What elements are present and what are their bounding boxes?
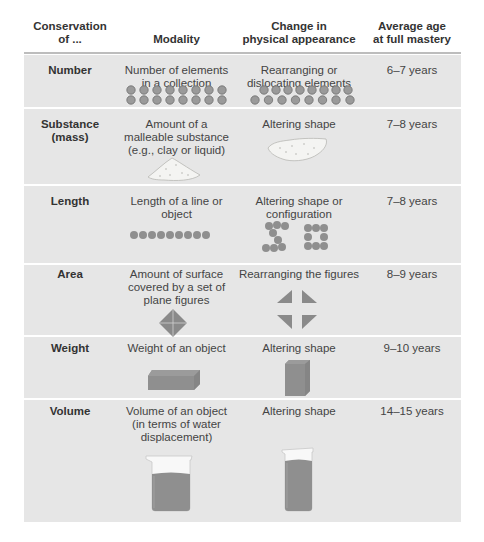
change-text: Altering shape <box>234 405 364 418</box>
narrow-beaker-figure <box>281 446 317 512</box>
change-text: Altering shape <box>234 118 364 131</box>
modality-line: malleable substance <box>114 131 239 144</box>
modality-text: Length of a line or object <box>114 195 239 221</box>
conservation-line: (mass) <box>24 131 116 144</box>
header-conservation-line2: of ... <box>24 33 116 46</box>
modality-line: Number of elements <box>114 64 239 77</box>
diamond-figure <box>158 308 188 338</box>
modality-line: Weight of an object <box>114 342 239 355</box>
age-value: 14–15 years <box>362 405 462 418</box>
table-row-volume: Volume Volume of an object (in terms of … <box>24 400 461 522</box>
modality-line: Amount of a <box>114 118 239 131</box>
tall-block-figure <box>285 359 311 397</box>
table-row-substance: Substance (mass) Amount of a malleable s… <box>24 109 461 184</box>
header-age-line2: at full mastery <box>362 33 462 46</box>
separated-triangles-figure <box>276 290 318 330</box>
change-line: Altering shape <box>234 405 364 418</box>
flat-block-figure <box>148 367 202 391</box>
header-modality-text: Modality <box>114 33 239 46</box>
dislocated-hexagons-figure <box>250 85 360 105</box>
change-line: Altering shape or <box>234 195 364 208</box>
conservation-label: Volume <box>24 405 116 418</box>
modality-line: plane figures <box>114 294 239 307</box>
header-modality: Modality <box>114 33 239 46</box>
header-change: Change in physical appearance <box>234 20 364 46</box>
modality-line: Length of a line or <box>114 195 239 208</box>
age-value: 6–7 years <box>362 64 462 77</box>
table-row-weight: Weight Weight of an object Altering shap… <box>24 337 461 398</box>
dot-line-figure <box>129 230 213 240</box>
age-value: 9–10 years <box>362 342 462 355</box>
conservation-label: Substance (mass) <box>24 118 116 144</box>
change-line: Altering shape <box>234 342 364 355</box>
table-row-length: Length Length of a line or object Alteri… <box>24 186 461 263</box>
modality-text: Volume of an object (in terms of water d… <box>114 405 239 444</box>
header-age-line1: Average age <box>362 20 462 33</box>
modality-text: Weight of an object <box>114 342 239 355</box>
flattened-clay-figure <box>266 136 330 164</box>
table-row-number: Number Number of elements in a collectio… <box>24 55 461 107</box>
conservation-label: Area <box>24 268 116 281</box>
change-line: configuration <box>234 208 364 221</box>
change-line: Altering shape <box>234 118 364 131</box>
change-text: Altering shape or configuration <box>234 195 364 221</box>
age-value: 7–8 years <box>362 118 462 131</box>
modality-text: Amount of surface covered by a set of pl… <box>114 268 239 307</box>
modality-line: covered by a set of <box>114 281 239 294</box>
change-line: Rearranging or <box>234 64 364 77</box>
modality-line: object <box>114 208 239 221</box>
conservation-table: Conservation of ... Modality Change in p… <box>24 0 461 522</box>
rearranged-dots-figure <box>262 221 352 253</box>
header-age: Average age at full mastery <box>362 20 462 46</box>
change-text: Altering shape <box>234 342 364 355</box>
wide-beaker-figure <box>144 454 196 512</box>
conservation-label: Length <box>24 195 116 208</box>
modality-line: Volume of an object <box>114 405 239 418</box>
modality-line: displacement) <box>114 431 239 444</box>
header-change-line1: Change in <box>234 20 364 33</box>
conservation-line: Substance <box>24 118 116 131</box>
table-row-area: Area Amount of surface covered by a set … <box>24 265 461 335</box>
age-value: 8–9 years <box>362 268 462 281</box>
clay-mound-figure <box>146 155 202 183</box>
conservation-label: Number <box>24 64 116 77</box>
header-change-line2: physical appearance <box>234 33 364 46</box>
change-line: Rearranging the figures <box>234 268 364 281</box>
age-value: 7–8 years <box>362 195 462 208</box>
conservation-label: Weight <box>24 342 116 355</box>
table-header: Conservation of ... Modality Change in p… <box>24 0 461 54</box>
header-conservation-line1: Conservation <box>24 20 116 33</box>
modality-line: (in terms of water <box>114 418 239 431</box>
change-text: Rearranging the figures <box>234 268 364 281</box>
header-conservation: Conservation of ... <box>24 20 116 46</box>
modality-text: Amount of a malleable substance (e.g., c… <box>114 118 239 157</box>
hexagon-collection-figure <box>125 85 229 105</box>
modality-line: Amount of surface <box>114 268 239 281</box>
